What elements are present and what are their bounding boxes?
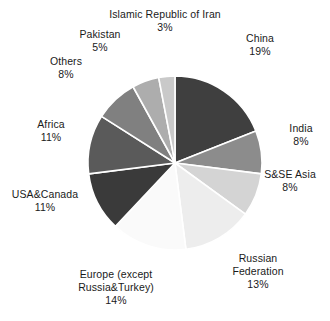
pie-slice-label-india-value: 8% bbox=[276, 135, 326, 148]
pie-slice-label-others-value: 8% bbox=[28, 68, 104, 81]
pie-slice-label-others: Others 8% bbox=[28, 55, 104, 81]
pie-chart-figure: China 19% India 8% S&SE Asia 8% Russian … bbox=[0, 0, 330, 321]
pie-slice-label-europe-line1: Europe (except bbox=[56, 268, 176, 281]
pie-slice-label-russian-federation-value: 13% bbox=[216, 278, 300, 291]
pie-slice-label-usa-canada: USA&Canada 11% bbox=[2, 188, 88, 214]
pie-slice-label-usa-canada-value: 11% bbox=[2, 201, 88, 214]
pie-slice-label-ssea-name: S&SE Asia bbox=[252, 168, 328, 181]
pie-slice-label-china-name: China bbox=[232, 32, 288, 45]
pie-slice-label-india-name: India bbox=[276, 122, 326, 135]
pie-slice-label-europe: Europe (except Russia&Turkey) 14% bbox=[56, 268, 176, 307]
pie-slice-label-iran-value: 3% bbox=[90, 21, 240, 34]
pie-slices-group bbox=[88, 76, 262, 250]
pie-slice-label-ssea: S&SE Asia 8% bbox=[252, 168, 328, 194]
pie-slice-label-iran-name: Islamic Republic of Iran bbox=[90, 8, 240, 21]
pie-slice-label-russian-federation: Russian Federation 13% bbox=[216, 252, 300, 291]
pie-slice-label-europe-line2: Russia&Turkey) bbox=[56, 281, 176, 294]
pie-slice-label-ssea-value: 8% bbox=[252, 181, 328, 194]
pie-slice-label-iran: Islamic Republic of Iran 3% bbox=[90, 8, 240, 34]
pie-slice-label-africa-name: Africa bbox=[14, 118, 88, 131]
pie-slice-label-europe-value: 14% bbox=[56, 294, 176, 307]
pie-slice-label-china-value: 19% bbox=[232, 45, 288, 58]
pie-slice-label-usa-canada-name: USA&Canada bbox=[2, 188, 88, 201]
pie-slice-label-india: India 8% bbox=[276, 122, 326, 148]
pie-slice-label-pakistan-value: 5% bbox=[55, 41, 145, 54]
pie-slice-label-china: China 19% bbox=[232, 32, 288, 58]
pie-slice-label-africa-value: 11% bbox=[14, 131, 88, 144]
pie-slice-label-africa: Africa 11% bbox=[14, 118, 88, 144]
pie-slice-label-russian-federation-line1: Russian bbox=[216, 252, 300, 265]
pie-slice-label-others-name: Others bbox=[28, 55, 104, 68]
pie-slice-label-russian-federation-line2: Federation bbox=[216, 265, 300, 278]
